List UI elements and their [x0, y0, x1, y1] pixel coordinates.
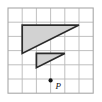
geometry-figure-svg: P	[0, 0, 102, 102]
figure-container: P	[0, 0, 102, 102]
point-p-label: P	[55, 81, 62, 91]
point-p	[49, 78, 53, 82]
